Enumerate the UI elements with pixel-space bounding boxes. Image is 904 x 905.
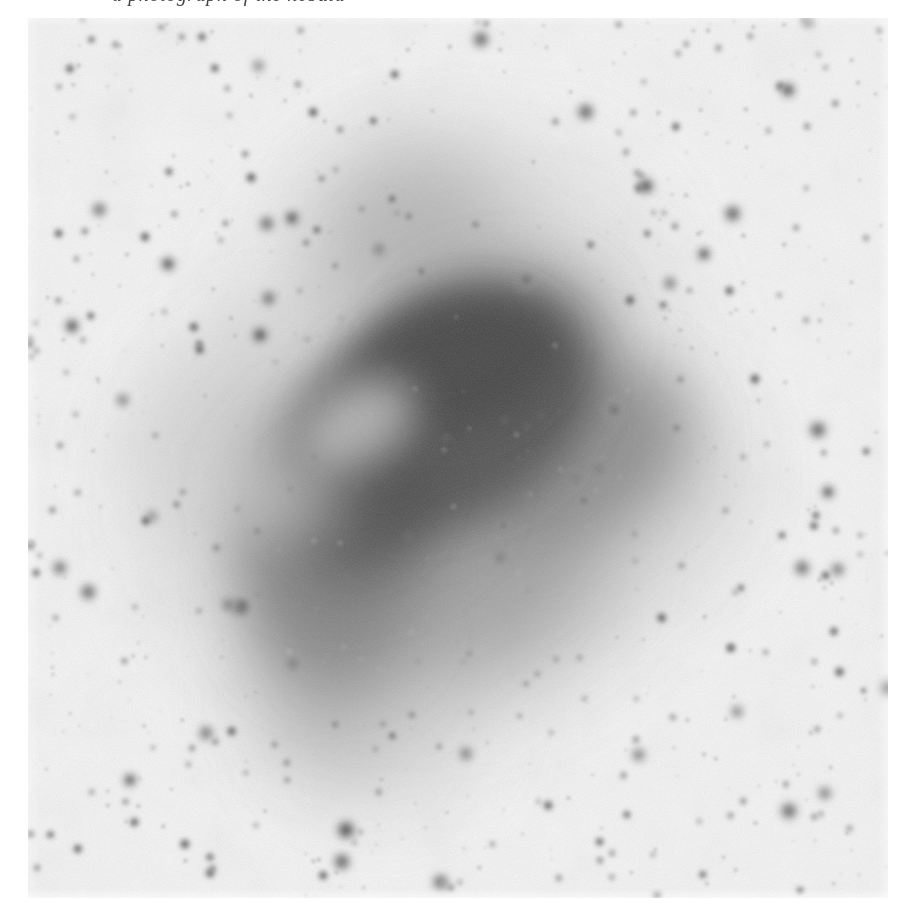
plate-container <box>0 0 904 905</box>
plate-render <box>28 18 888 898</box>
film-grain <box>28 18 888 898</box>
plate-page: a photograph of the nebula <box>0 0 904 905</box>
astronomical-plate-image <box>28 18 888 898</box>
